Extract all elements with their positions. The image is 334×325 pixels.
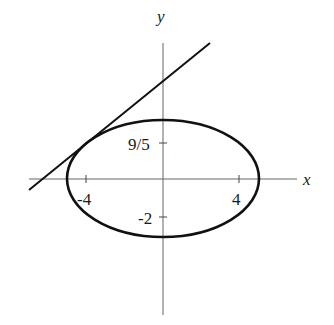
- y-tick-label-neg2: -2: [138, 209, 152, 228]
- diagram-canvas: y x -4 4 9/5 -2: [0, 0, 334, 325]
- tangent-line: [29, 43, 210, 190]
- x-tick-label-4: 4: [232, 190, 241, 209]
- x-axis-label: x: [302, 170, 311, 189]
- y-axis-label: y: [155, 7, 165, 26]
- x-tick-label-neg4: -4: [77, 190, 92, 209]
- y-tick-label-9-5: 9/5: [128, 135, 150, 154]
